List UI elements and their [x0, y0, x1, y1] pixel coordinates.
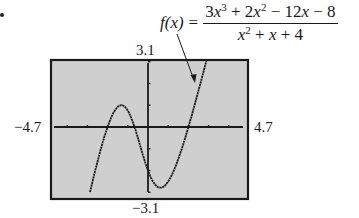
xmax-label: 4.7 — [254, 120, 273, 135]
xmin-label: −4.7 — [14, 120, 41, 135]
ymin-label: −3.1 — [132, 201, 159, 216]
ymax-label: 3.1 — [136, 43, 155, 58]
calculator-screen-frame — [51, 60, 248, 199]
graph-window — [0, 0, 359, 218]
